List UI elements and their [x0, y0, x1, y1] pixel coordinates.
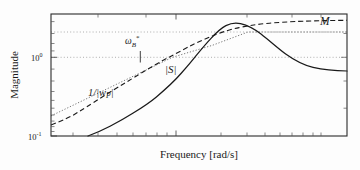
x-axis-title: Frequency [rad/s] — [160, 148, 238, 160]
figure-container: 100 10-1 Frequency [rad/s] Magnitude M |… — [0, 0, 360, 170]
gridlines — [51, 32, 347, 57]
y-axis-title: Magnitude — [8, 51, 20, 99]
x-axis-ticks — [73, 14, 321, 136]
curve-wp-asymptote — [51, 32, 347, 116]
annotation-m: M — [319, 15, 331, 27]
curve-inverse-wp — [51, 20, 347, 125]
y-axis-ticks — [51, 22, 347, 136]
annotation-omega-b: ωB* — [125, 34, 140, 49]
annotation-sensitivity: |S| — [165, 63, 177, 75]
ytick-label-0.1: 10-1 — [28, 131, 42, 142]
ytick-label-1: 100 — [31, 52, 43, 63]
y-tick-labels: 100 10-1 — [28, 52, 43, 142]
chart-svg: 100 10-1 Frequency [rad/s] Magnitude M |… — [0, 0, 360, 170]
